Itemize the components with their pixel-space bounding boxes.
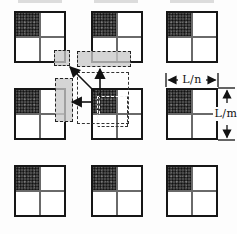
target-region-corner: [54, 50, 70, 66]
inclusion-quadrant-top-left: [168, 167, 192, 191]
unit-cell-r3c3: [166, 165, 218, 217]
unit-cell-r3c1: [14, 165, 66, 217]
inclusion-quadrant-top-left: [16, 13, 40, 37]
cell-divider-horizontal: [16, 190, 64, 192]
cell-divider-horizontal: [93, 36, 141, 38]
unit-cell-r1c3: [166, 11, 218, 63]
displaced-inclusion-outline: [97, 96, 128, 127]
scan-artifact: [94, 0, 138, 3]
target-region-left: [55, 78, 73, 122]
scan-artifact: [18, 0, 62, 3]
inclusion-quadrant-top-left: [93, 167, 117, 191]
scan-artifact: [170, 0, 214, 3]
inclusion-quadrant-top-left: [93, 13, 117, 37]
diagram-canvas: L/n L/m: [0, 0, 237, 234]
unit-cell-r3c2: [91, 165, 143, 217]
cell-divider-horizontal: [168, 190, 216, 192]
inclusion-quadrant-top-left: [16, 90, 40, 114]
cell-divider-horizontal: [168, 36, 216, 38]
unit-cell-r2c3: [166, 88, 218, 140]
inclusion-quadrant-top-left: [16, 167, 40, 191]
cell-divider-horizontal: [16, 36, 64, 38]
inclusion-quadrant-top-left: [168, 13, 192, 37]
cell-divider-horizontal: [93, 190, 141, 192]
target-region-top: [77, 51, 131, 67]
inclusion-quadrant-top-left: [168, 90, 192, 114]
cell-height-label: L/m: [213, 107, 237, 121]
cell-divider-horizontal: [168, 113, 216, 115]
cell-width-label: L/n: [178, 73, 206, 87]
arrow-up-hidden-line: [99, 90, 100, 114]
